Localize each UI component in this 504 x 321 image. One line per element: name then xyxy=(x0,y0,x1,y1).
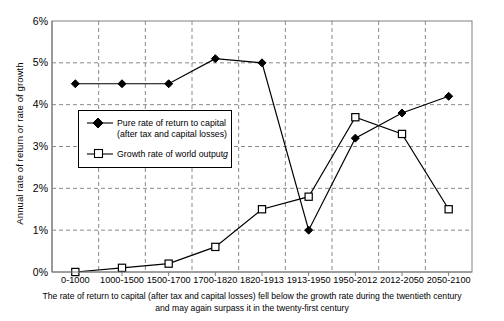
x-axis-tick-label: 2050-2100 xyxy=(427,275,471,285)
legend-entry-growth-rate-symbol: g xyxy=(223,149,228,159)
legend-entry-growth-rate: Growth rate of world outputg xyxy=(117,149,228,160)
legend-entry-capital-return-line1: Pure rate of return to capital xyxy=(117,118,227,129)
chart-caption-line1: The rate of return to capital (after tax… xyxy=(22,291,482,303)
y-axis-tick-label: 3% xyxy=(18,141,48,152)
x-axis-tick-label: 1913-1950 xyxy=(287,275,331,285)
chart-plot-area xyxy=(0,0,504,321)
data-point-growth-rate xyxy=(398,130,405,137)
y-axis-tick-label: 2% xyxy=(18,183,48,194)
y-axis-tick-label: 5% xyxy=(18,57,48,68)
legend-entry-growth-rate-text: Growth rate of world output xyxy=(117,149,223,159)
x-axis-tick-label: 1950-2012 xyxy=(333,275,377,285)
y-axis-tick-label: 0% xyxy=(18,267,48,278)
x-axis-tick-label: 1700-1820 xyxy=(193,275,237,285)
x-axis-tick-label: 2012-2050 xyxy=(380,275,424,285)
chart-legend: Pure rate of return to capital (after ta… xyxy=(78,110,232,168)
y-axis-tick-label: 6% xyxy=(18,16,48,27)
legend-entry-capital-return-line2: (after tax and capital losses) xyxy=(117,129,227,140)
x-axis-tick-label: 1820-1913 xyxy=(240,275,284,285)
x-axis-tick-label: 1000-1500 xyxy=(100,275,144,285)
x-axis-tick-label: 0-1000 xyxy=(61,275,90,285)
data-point-growth-rate xyxy=(258,206,265,213)
open-square-icon xyxy=(93,148,104,159)
chart-caption-line2: and may again surpass it in the twenty-f… xyxy=(22,303,482,315)
data-point-growth-rate xyxy=(305,193,312,200)
x-axis-tick-label: 1500-1700 xyxy=(147,275,191,285)
y-axis-tick-labels: 0%1%2%3%4%5%6% xyxy=(16,0,48,321)
chart-caption: The rate of return to capital (after tax… xyxy=(22,291,482,314)
data-point-growth-rate xyxy=(212,243,219,250)
y-axis-tick-label: 1% xyxy=(18,225,48,236)
chart-figure: Annual rate of return or rate of growth … xyxy=(0,0,504,321)
data-point-growth-rate xyxy=(165,260,172,267)
y-axis-tick-label: 4% xyxy=(18,99,48,110)
data-point-growth-rate xyxy=(352,114,359,121)
filled-diamond-icon xyxy=(92,117,104,129)
data-point-growth-rate xyxy=(118,264,125,271)
data-point-growth-rate xyxy=(445,206,452,213)
legend-entry-capital-return: Pure rate of return to capital (after ta… xyxy=(117,118,227,139)
